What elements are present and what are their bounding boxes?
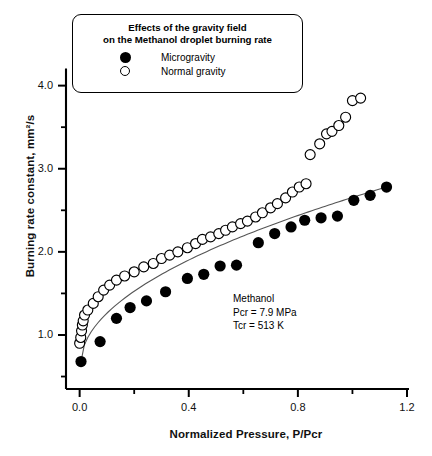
data-point [341, 112, 351, 122]
data-point [301, 179, 311, 189]
figure: Burning rate constant, mm²/s Normalized … [0, 0, 432, 456]
data-point [299, 215, 310, 226]
data-point [75, 356, 86, 367]
legend-title-line-1: Effects of the gravity field [73, 22, 302, 34]
data-point [231, 260, 242, 271]
x-axis-label: Normalized Pressure, P/Pcr [96, 428, 396, 440]
chart-annotation: Methanol Pcr = 7.9 MPa Tcr = 513 K [233, 292, 297, 333]
data-point [315, 212, 326, 223]
legend-item-label: Normal gravity [161, 66, 225, 77]
data-point [95, 336, 106, 347]
legend-item-microgravity: Microgravity [73, 52, 302, 63]
figure-caption [0, 446, 432, 456]
data-point [111, 313, 122, 324]
data-point [173, 247, 183, 257]
legend-item-normal-gravity: Normal gravity [73, 66, 302, 77]
data-point [182, 273, 193, 284]
data-point [315, 139, 325, 149]
data-point [332, 211, 343, 222]
x-axis-tick-label: 0.8 [278, 401, 318, 413]
y-axis-tick-label: 4.0 [13, 79, 53, 91]
data-point [365, 190, 376, 201]
x-axis-tick-label: 1.2 [387, 401, 427, 413]
data-point [120, 271, 130, 281]
data-point [269, 228, 280, 239]
y-axis-tick-label: 2.0 [13, 245, 53, 257]
open-circle-icon [112, 66, 138, 76]
data-point [253, 237, 264, 248]
y-axis-tick-label: 1.0 [13, 328, 53, 340]
data-point [285, 221, 296, 232]
y-axis-tick-label: 3.0 [13, 162, 53, 174]
legend-title-line-2: on the Methanol droplet burning rate [73, 34, 302, 46]
chart-legend: Effects of the gravity field on the Meth… [72, 14, 303, 93]
data-point [141, 295, 152, 306]
data-point [334, 121, 344, 131]
annotation-line-1: Methanol [233, 292, 297, 306]
data-point [348, 195, 359, 206]
filled-circle-icon [112, 52, 138, 63]
data-point [215, 260, 226, 271]
data-point [139, 262, 149, 272]
legend-item-label: Microgravity [161, 52, 215, 63]
y-axis-label: Burning rate constant, mm²/s [24, 81, 36, 311]
data-point [381, 181, 392, 192]
data-point [160, 286, 171, 297]
data-point [305, 150, 315, 160]
data-point [356, 93, 366, 103]
x-axis-tick-label: 0.4 [169, 401, 209, 413]
annotation-line-3: Tcr = 513 K [233, 319, 297, 333]
data-point [125, 302, 136, 313]
data-point [129, 267, 139, 277]
data-point [198, 269, 209, 280]
annotation-line-2: Pcr = 7.9 MPa [233, 306, 297, 320]
x-axis-tick-label: 0.0 [60, 401, 100, 413]
